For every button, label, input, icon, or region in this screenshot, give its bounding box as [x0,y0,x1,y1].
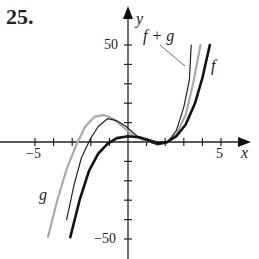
plot-area [0,0,259,259]
x-tick-label-neg5: −5 [26,146,41,162]
y-tick-label-50: 50 [104,37,118,53]
x-axis-label: x [241,144,248,162]
chart-container: 25. y x −5 5 50 −50 f + g f g [0,0,259,259]
x-tick-label-5: 5 [216,146,223,162]
f-curve-label: f [211,57,215,75]
g-curve-label: g [39,186,47,204]
fg-leader-line [160,45,185,66]
series-g [48,45,201,237]
fg-curve-label: f + g [143,27,174,45]
y-axis-arrow-icon [123,6,133,19]
y-axis-label: y [136,10,143,28]
y-tick-label-neg50: −50 [94,231,116,247]
